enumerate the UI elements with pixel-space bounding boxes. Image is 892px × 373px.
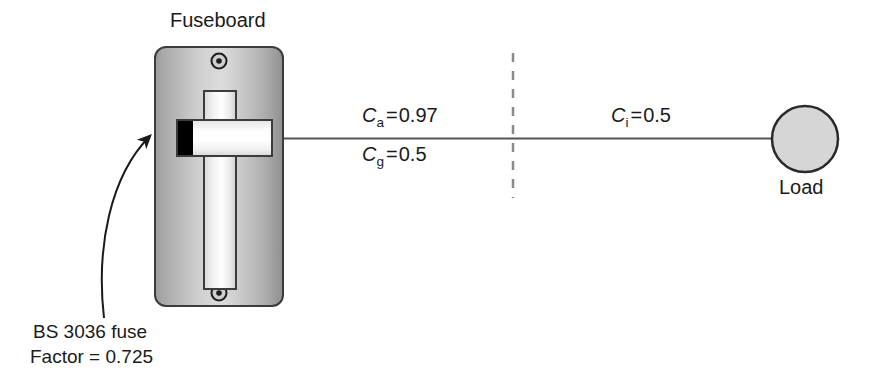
fuse-annotation-text: BS 3036 fuse Factor = 0.725 (33, 322, 153, 368)
fuse-annotation-line-1: BS 3036 fuse (33, 322, 153, 343)
coefficient-cg-symbol: C (362, 143, 376, 165)
diagram-canvas (0, 0, 892, 373)
bs3036-fuse-element (178, 121, 193, 155)
coefficient-ca-equals: = (384, 104, 399, 126)
coefficient-ca-symbol: C (362, 104, 376, 126)
coefficient-ci-value: 0.5 (643, 104, 671, 126)
fuseboard-circuit-diagram: Fuseboard Ca=0.97 Cg=0.5 Ci=0.5 Load BS … (0, 0, 892, 373)
coefficient-cg-value: 0.5 (399, 143, 427, 165)
fuseboard-panel (155, 47, 283, 306)
coefficient-ci-symbol: C (611, 104, 625, 126)
coefficient-ca-value: 0.97 (399, 104, 438, 126)
fuse-annotation-arrow (102, 136, 150, 318)
fuse-annotation-line-2: Factor = 0.725 (30, 347, 153, 368)
coefficient-ca-label: Ca=0.97 (362, 104, 438, 131)
coefficient-cg-equals: = (384, 143, 399, 165)
load-label: Load (779, 176, 824, 198)
coefficient-cg-subscript: g (376, 154, 384, 169)
coefficient-ci-equals: = (628, 104, 643, 126)
panel-screw-top (212, 54, 227, 69)
coefficient-ci-label: Ci=0.5 (611, 104, 671, 131)
busbar-rail-lower (204, 156, 236, 289)
load-circle (772, 106, 838, 172)
coefficient-ca-subscript: a (376, 115, 384, 130)
coefficient-cg-label: Cg=0.5 (362, 143, 427, 170)
fuseboard-title-label: Fuseboard (170, 9, 266, 31)
busbar-rail-upper (204, 91, 236, 122)
